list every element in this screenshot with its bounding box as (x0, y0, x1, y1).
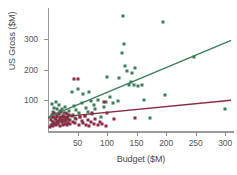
data-point (77, 112, 80, 115)
data-point (70, 90, 73, 93)
data-point (93, 122, 96, 125)
data-point (91, 112, 94, 115)
x-tick-label: 300 (218, 138, 232, 148)
y-tick-label: 300 (24, 34, 38, 44)
data-point (163, 93, 166, 96)
data-point (51, 102, 54, 105)
x-axis-title: Budget ($M) (48, 154, 234, 164)
data-point (93, 103, 96, 106)
data-point (148, 117, 151, 120)
data-point (106, 112, 109, 115)
data-point (72, 105, 75, 108)
y-tick-label: 100 (24, 95, 38, 105)
data-point (101, 123, 104, 126)
data-point (65, 124, 68, 127)
data-point (128, 84, 131, 87)
data-point (75, 117, 78, 120)
data-point (73, 122, 76, 125)
data-point (81, 102, 84, 105)
data-point (111, 102, 114, 105)
data-point (54, 100, 57, 103)
x-tick-mark (225, 131, 226, 136)
data-point (132, 83, 135, 86)
data-point (103, 100, 106, 103)
data-point (82, 93, 85, 96)
data-point (113, 117, 116, 120)
data-point (116, 99, 119, 102)
x-axis-line (48, 131, 234, 133)
data-point (89, 100, 92, 103)
data-point (143, 98, 146, 101)
data-point (117, 77, 120, 80)
data-point (72, 78, 75, 81)
data-point (87, 110, 90, 113)
data-point (89, 120, 92, 123)
y-tick-label: 200 (24, 65, 38, 75)
data-point (94, 118, 97, 121)
data-point (97, 124, 100, 127)
data-point (193, 56, 196, 59)
x-tick-mark (107, 131, 108, 136)
data-point (76, 78, 79, 81)
data-point (125, 70, 128, 73)
data-point (121, 14, 124, 17)
data-point (106, 76, 109, 79)
scatter-plot-figure: 50100150200250300 100200300 Budget ($M) … (0, 0, 237, 175)
data-point (104, 125, 107, 128)
data-point (134, 67, 137, 70)
data-point (162, 20, 165, 23)
data-point (134, 117, 137, 120)
data-point (64, 106, 67, 109)
data-point (58, 103, 61, 106)
x-tick-mark (196, 131, 197, 136)
data-point (68, 110, 71, 113)
data-point (68, 119, 71, 122)
data-point (109, 96, 112, 99)
data-point (70, 115, 73, 118)
x-tick-label: 250 (189, 138, 203, 148)
data-point (100, 116, 103, 119)
data-point (122, 42, 125, 45)
data-point (97, 99, 100, 102)
data-point (79, 116, 82, 119)
data-point (131, 72, 134, 75)
y-tick-mark (44, 39, 49, 40)
data-point (94, 108, 97, 111)
x-tick-label: 100 (100, 138, 114, 148)
data-point (88, 125, 91, 128)
x-tick-label: 150 (130, 138, 144, 148)
data-point (224, 108, 227, 111)
y-tick-mark (44, 70, 49, 71)
y-tick-mark (44, 100, 49, 101)
data-point (123, 64, 126, 67)
x-tick-mark (137, 131, 138, 136)
data-point (53, 111, 56, 114)
data-point (83, 114, 86, 117)
data-point (59, 110, 62, 113)
data-point (120, 51, 123, 54)
x-tick-mark (166, 131, 167, 136)
y-axis-title: US Gross ($M) (7, 0, 17, 89)
trend-lines-layer (0, 0, 237, 175)
x-tick-label: 200 (159, 138, 173, 148)
data-point (88, 90, 91, 93)
data-point (136, 85, 139, 88)
data-point (76, 88, 79, 91)
x-tick-label: 50 (73, 138, 82, 148)
data-point (77, 124, 80, 127)
x-tick-mark (78, 131, 79, 136)
data-point (85, 106, 88, 109)
data-point (141, 83, 144, 86)
data-point (103, 106, 106, 109)
